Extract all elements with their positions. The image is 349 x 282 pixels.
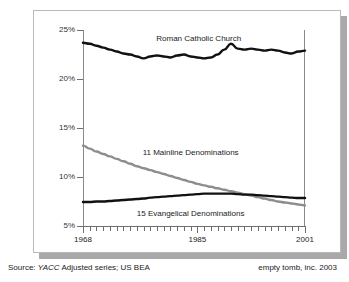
- x-axis-tick-mark: [204, 226, 205, 231]
- y-axis-tick-label: 5%: [39, 222, 75, 230]
- x-axis-tick-mark: [238, 226, 239, 231]
- x-axis-tick-label: 2001: [296, 235, 314, 244]
- series-label: 11 Mainline Denominations: [143, 148, 239, 157]
- y-axis-tick-label: 15%: [39, 124, 75, 132]
- credit-note: empty tomb, inc. 2003: [258, 263, 337, 273]
- x-axis-tick-mark: [298, 226, 299, 231]
- x-axis-tick-mark: [224, 226, 225, 231]
- x-axis-tick-label: 1968: [74, 235, 92, 244]
- y-axis-tick-label: 20%: [39, 75, 75, 83]
- x-axis-tick-mark: [211, 226, 212, 231]
- x-axis-tick-mark: [170, 226, 171, 231]
- source-note: Source: YACC Adjusted series; US BEA: [8, 263, 150, 273]
- x-axis-tick-mark: [258, 226, 259, 231]
- source-publication: YACC: [38, 263, 60, 272]
- x-axis-tick-mark: [130, 226, 131, 231]
- x-axis-tick-mark: [150, 226, 151, 231]
- x-axis-tick-mark: [110, 226, 111, 231]
- x-axis-tick-mark: [83, 226, 84, 233]
- x-axis-tick-mark: [184, 226, 185, 231]
- series-lines: [83, 30, 305, 226]
- chart-panel-inner: 25%20%15%10%5% 196819852001 Roman Cathol…: [39, 16, 335, 247]
- source-prefix: Source:: [8, 263, 36, 272]
- y-axis-tick-label: 25%: [39, 26, 75, 34]
- x-axis-tick-mark: [137, 226, 138, 231]
- chart-footer: Source: YACC Adjusted series; US BEA emp…: [8, 263, 341, 277]
- y-axis-tick-label: 10%: [39, 173, 75, 181]
- x-axis-tick-mark: [90, 226, 91, 231]
- x-axis-tick-mark: [278, 226, 279, 231]
- x-axis-tick-mark: [231, 226, 232, 231]
- x-axis-tick-mark: [265, 226, 266, 231]
- series-label: Roman Catholic Church: [156, 34, 241, 43]
- screenshot-root: 25%20%15%10%5% 196819852001 Roman Cathol…: [0, 0, 349, 282]
- x-axis-tick-mark: [164, 226, 165, 231]
- x-axis-tick-mark: [218, 226, 219, 231]
- x-axis-tick-mark: [191, 226, 192, 231]
- x-axis-tick-mark: [177, 226, 178, 231]
- x-axis-tick-mark: [292, 226, 293, 231]
- plot-area: 25%20%15%10%5% 196819852001 Roman Cathol…: [39, 16, 335, 247]
- x-axis-tick-mark: [123, 226, 124, 231]
- x-axis-tick-mark: [96, 226, 97, 231]
- x-axis-tick-mark: [251, 226, 252, 231]
- x-axis-tick-mark: [103, 226, 104, 231]
- x-axis-tick-mark: [271, 226, 272, 231]
- x-axis-tick-mark: [157, 226, 158, 231]
- series-label: 15 Evangelical Denominations: [137, 209, 245, 218]
- x-axis-tick-mark: [285, 226, 286, 231]
- series-line: [83, 43, 305, 59]
- x-axis-tick-mark: [244, 226, 245, 231]
- x-axis-tick-label: 1985: [188, 235, 206, 244]
- x-axis-tick-mark: [305, 226, 306, 233]
- chart-panel: 25%20%15%10%5% 196819852001 Roman Cathol…: [33, 10, 341, 253]
- x-axis-tick-mark: [144, 226, 145, 231]
- source-detail: Adjusted series; US BEA: [61, 263, 149, 272]
- x-axis-tick-mark: [117, 226, 118, 231]
- x-axis-tick-mark: [197, 226, 198, 233]
